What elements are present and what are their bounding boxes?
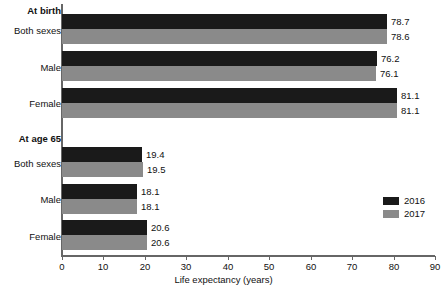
life-expectancy-bar-chart: At birth Both sexes Male Female At age 6…: [0, 0, 445, 290]
bar-birth-male-2016: [62, 51, 377, 66]
value-label-birth-male-2016: 76.2: [381, 53, 400, 64]
bar-birth-male-2017: [62, 66, 376, 81]
legend-swatch-2017-icon: [383, 210, 399, 218]
category-label-age65-male: Male: [40, 194, 61, 205]
x-axis-title-text: Life expectancy (years): [174, 274, 272, 285]
category-label-birth-male: Male: [40, 62, 61, 73]
value-label-age65-female-2016: 20.6: [151, 222, 170, 233]
bar-age65-both-sexes-2016: [62, 147, 142, 162]
x-tick-label-90: 90: [430, 261, 441, 272]
value-label-birth-female-2017: 81.1: [401, 105, 420, 116]
bar-birth-both-sexes-2017: [62, 29, 387, 44]
x-tick-label-40: 40: [223, 261, 234, 272]
bar-birth-both-sexes-2016: [62, 14, 387, 29]
x-axis-title: Life expectancy (years): [0, 274, 445, 285]
x-tick-30: [186, 256, 187, 260]
legend-item-2016: 2016: [383, 194, 425, 207]
value-label-age65-female-2017: 20.6: [151, 237, 170, 248]
x-tick-label-0: 0: [59, 261, 64, 272]
category-label-birth-both-sexes: Both sexes: [14, 25, 61, 36]
x-tick-label-10: 10: [98, 261, 109, 272]
bar-age65-female-2016: [62, 220, 147, 235]
bar-age65-both-sexes-2017: [62, 162, 143, 177]
value-label-age65-male-2017: 18.1: [141, 201, 160, 212]
x-tick-0: [62, 256, 63, 260]
x-tick-label-50: 50: [264, 261, 275, 272]
x-tick-label-70: 70: [347, 261, 358, 272]
bar-age65-female-2017: [62, 235, 147, 250]
category-label-age65-female: Female: [29, 231, 61, 242]
bar-age65-male-2016: [62, 184, 137, 199]
x-tick-80: [394, 256, 395, 260]
legend: 2016 2017: [383, 194, 425, 220]
value-label-birth-male-2017: 76.1: [380, 68, 399, 79]
x-tick-label-20: 20: [140, 261, 151, 272]
category-label-age65-both-sexes: Both sexes: [14, 158, 61, 169]
x-tick-60: [311, 256, 312, 260]
x-tick-40: [228, 256, 229, 260]
bar-birth-female-2016: [62, 88, 397, 103]
bar-birth-female-2017: [62, 103, 397, 118]
value-label-birth-both-sexes-2016: 78.7: [391, 16, 410, 27]
plot-area: [62, 0, 435, 256]
x-tick-70: [352, 256, 353, 260]
group-label-at-age-65: At age 65: [19, 133, 61, 144]
bar-age65-male-2017: [62, 199, 137, 214]
value-label-age65-both-sexes-2016: 19.4: [146, 149, 165, 160]
legend-item-2017: 2017: [383, 207, 425, 220]
value-label-age65-both-sexes-2017: 19.5: [147, 164, 166, 175]
legend-label-2016: 2016: [404, 195, 425, 206]
x-tick-50: [269, 256, 270, 260]
legend-label-2017: 2017: [404, 208, 425, 219]
value-label-birth-female-2016: 81.1: [401, 90, 420, 101]
x-tick-label-60: 60: [306, 261, 317, 272]
legend-swatch-2016-icon: [383, 197, 399, 205]
x-tick-20: [145, 256, 146, 260]
x-tick-label-80: 80: [389, 261, 400, 272]
value-label-birth-both-sexes-2017: 78.6: [391, 31, 410, 42]
category-label-birth-female: Female: [29, 98, 61, 109]
value-label-age65-male-2016: 18.1: [141, 186, 160, 197]
x-tick-90: [435, 256, 436, 260]
x-tick-label-30: 30: [181, 261, 192, 272]
group-label-at-birth: At birth: [27, 5, 61, 16]
x-tick-10: [103, 256, 104, 260]
